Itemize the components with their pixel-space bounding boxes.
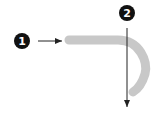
callout-2: 2 <box>119 5 135 21</box>
diagram-canvas: 1 2 <box>0 0 164 113</box>
callout-2-label: 2 <box>123 7 131 20</box>
callout-1: 1 <box>14 33 30 49</box>
hook-path <box>69 40 146 92</box>
callout-1-label: 1 <box>18 35 26 48</box>
